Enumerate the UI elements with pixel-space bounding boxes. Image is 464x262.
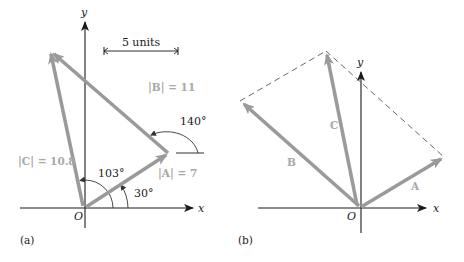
angle-label-30: 30°	[134, 187, 154, 200]
dashed-edge-left	[240, 51, 326, 101]
vector-A-a	[86, 155, 166, 207]
vector-B-b	[244, 104, 359, 206]
panel-b-label: (b)	[238, 234, 253, 246]
vector-addition-diagram: x y O 5 units |B| = 11 |C| = 10.8 |A| = …	[0, 0, 464, 262]
panel-a: x y O 5 units |B| = 11 |C| = 10.8 |A| = …	[18, 6, 207, 246]
x-axis-label-a: x	[198, 202, 205, 215]
vector-C-magnitude-label: |C| = 10.8	[18, 155, 76, 168]
scale-bar-label: 5 units	[122, 36, 161, 49]
panel-a-label: (a)	[20, 234, 34, 246]
angle-label-140: 140°	[180, 115, 207, 128]
vector-B-label-b: B	[287, 156, 296, 168]
angle-label-103: 103°	[98, 167, 125, 180]
vector-B-magnitude-label: |B| = 11	[148, 81, 195, 94]
y-axis-label-a: y	[80, 6, 88, 19]
vector-A-label-b: A	[410, 180, 420, 192]
y-axis-label-b: y	[356, 56, 364, 69]
vector-A-b	[361, 159, 441, 207]
x-axis-label-b: x	[433, 202, 440, 215]
origin-label-a: O	[74, 210, 83, 223]
vector-B-a	[54, 54, 168, 153]
angle-arc-30	[121, 185, 128, 208]
panel-b: x y O A B C (b)	[238, 51, 444, 246]
vector-A-magnitude-label: |A| = 7	[158, 167, 197, 180]
vector-C-label-b: C	[330, 119, 338, 131]
origin-label-b: O	[347, 210, 356, 223]
